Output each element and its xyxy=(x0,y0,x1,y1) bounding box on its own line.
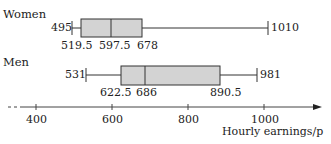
men-median-value: 686 xyxy=(136,87,157,99)
men-q1-value: 622.5 xyxy=(100,87,132,99)
axis-arrow-icon xyxy=(313,104,322,110)
women-max-value: 1010 xyxy=(271,22,299,34)
women-q3-value: 678 xyxy=(137,40,158,52)
women-q1-value: 519.5 xyxy=(61,40,93,52)
x-axis-label: Hourly earnings/p xyxy=(222,126,323,138)
women-min-value: 495 xyxy=(51,22,72,34)
women-boxplot xyxy=(72,19,268,37)
men-max-value: 981 xyxy=(260,69,281,81)
men-label: Men xyxy=(3,56,29,69)
x-axis xyxy=(8,104,322,110)
men-box xyxy=(121,66,220,85)
tick-label-600: 600 xyxy=(102,114,123,126)
tick-label-400: 400 xyxy=(26,114,47,126)
tick-label-800: 800 xyxy=(178,114,199,126)
men-boxplot xyxy=(86,66,257,85)
men-min-value: 531 xyxy=(65,69,86,81)
men-q3-value: 890.5 xyxy=(210,87,242,99)
women-label: Women xyxy=(3,8,46,21)
women-median-value: 597.5 xyxy=(99,40,131,52)
